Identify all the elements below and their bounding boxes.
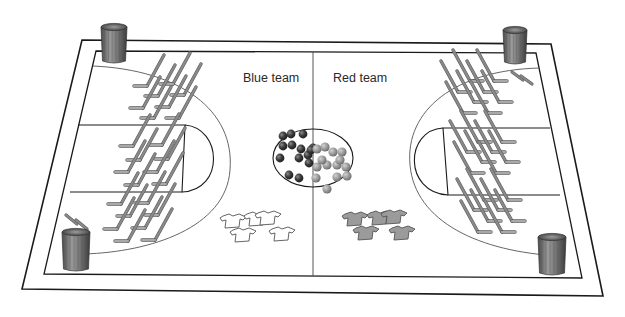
trash-can-rim [503, 26, 527, 33]
red-ball-icon [332, 172, 341, 181]
trash-can-rim [538, 233, 566, 240]
trash-can-bottom-left [62, 228, 90, 271]
court-illustration [0, 0, 625, 317]
red-ball-icon [311, 173, 320, 182]
blue-ball-icon [279, 142, 288, 151]
trash-can-top-left [101, 23, 127, 63]
blue-ball-icon [295, 154, 304, 163]
trash-can-top-right [503, 26, 527, 64]
trash-can-rim [101, 23, 127, 30]
court-lines [22, 40, 603, 296]
blue-ball-icon [279, 132, 288, 141]
blue-ball-icon [295, 174, 304, 183]
blue-team-label: Blue team [243, 71, 299, 85]
blue-ball-icon [297, 145, 306, 154]
red-team-label: Red team [333, 71, 387, 85]
red-ball-icon [312, 144, 321, 153]
blue-ball-icon [285, 171, 294, 180]
blue-ball-icon [287, 130, 296, 139]
red-ball-icon [317, 155, 326, 164]
red-ball-icon [342, 171, 351, 180]
blue-ball-icon [276, 154, 285, 163]
red-ball-icon [337, 147, 346, 156]
red-ball-icon [320, 142, 329, 151]
trash-can-bottom-right [538, 233, 566, 275]
blue-ball-icon [305, 159, 314, 168]
blue-ball-icon [299, 130, 308, 139]
red-ball-icon [335, 155, 344, 164]
trash-can-rim [62, 228, 90, 235]
red-ball-icon [341, 162, 350, 171]
blue-ball-icon [288, 141, 297, 150]
red-ball-icon [322, 184, 331, 193]
red-ball-icon [328, 147, 337, 156]
